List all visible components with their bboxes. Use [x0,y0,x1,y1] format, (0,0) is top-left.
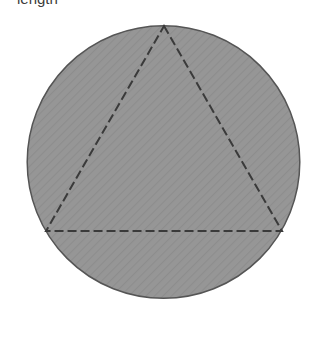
geometry-diagram [0,0,330,347]
circle-shape [27,26,300,299]
figure-canvas: length [0,0,330,347]
